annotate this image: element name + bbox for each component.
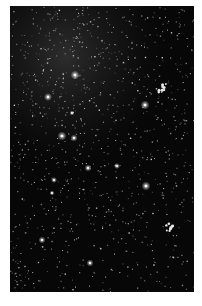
faint-star xyxy=(182,264,183,265)
faint-star xyxy=(22,149,23,150)
faint-star xyxy=(78,178,79,179)
faint-star xyxy=(110,129,111,130)
faint-star xyxy=(132,109,133,110)
faint-star xyxy=(65,273,66,274)
faint-star xyxy=(24,180,25,181)
faint-star xyxy=(95,135,96,136)
faint-star xyxy=(147,222,148,223)
faint-star xyxy=(148,173,149,174)
faint-star xyxy=(17,191,18,192)
faint-star xyxy=(128,181,129,182)
faint-star xyxy=(77,27,78,28)
faint-star xyxy=(119,272,120,273)
faint-star xyxy=(53,30,54,31)
faint-star xyxy=(59,261,60,262)
faint-star xyxy=(171,92,172,93)
faint-star xyxy=(174,174,175,175)
faint-star xyxy=(32,206,33,207)
faint-star xyxy=(184,11,185,12)
faint-star xyxy=(76,165,77,166)
faint-star xyxy=(91,56,92,57)
faint-star xyxy=(68,40,69,41)
faint-star xyxy=(79,34,80,35)
faint-star xyxy=(87,204,88,205)
faint-star xyxy=(62,108,63,109)
faint-star xyxy=(93,164,94,165)
faint-star xyxy=(64,101,65,102)
faint-star xyxy=(27,223,28,224)
faint-star xyxy=(177,89,178,90)
bright-star-core xyxy=(116,165,118,167)
faint-star xyxy=(122,191,123,192)
faint-star xyxy=(78,38,79,39)
faint-star xyxy=(88,210,89,211)
cluster-star xyxy=(161,91,163,93)
faint-star xyxy=(142,157,143,158)
faint-star xyxy=(65,40,66,41)
faint-star xyxy=(128,59,129,60)
faint-star xyxy=(121,154,122,155)
faint-star xyxy=(110,94,111,95)
faint-star xyxy=(162,195,163,196)
faint-star xyxy=(17,162,18,163)
faint-star xyxy=(108,52,109,53)
faint-star xyxy=(106,177,107,178)
faint-star xyxy=(58,287,59,288)
faint-star xyxy=(166,152,167,153)
faint-star xyxy=(92,129,93,130)
faint-star xyxy=(155,262,156,263)
faint-star xyxy=(131,24,132,25)
faint-star xyxy=(76,224,77,225)
faint-star xyxy=(41,179,42,180)
faint-star xyxy=(154,12,155,13)
faint-star xyxy=(177,35,178,36)
faint-star xyxy=(111,211,112,212)
faint-star xyxy=(84,124,85,125)
faint-star xyxy=(48,81,49,82)
faint-star xyxy=(171,32,172,33)
faint-star xyxy=(135,167,136,168)
faint-star xyxy=(83,7,84,8)
faint-star xyxy=(131,22,132,23)
faint-star xyxy=(11,74,12,75)
faint-star xyxy=(181,182,182,183)
faint-star xyxy=(23,174,24,175)
faint-star xyxy=(100,92,101,93)
faint-star xyxy=(44,20,45,21)
faint-star xyxy=(144,47,145,48)
faint-star xyxy=(103,83,104,84)
faint-star xyxy=(135,134,136,135)
faint-star xyxy=(72,95,73,96)
faint-star xyxy=(93,245,94,246)
faint-star xyxy=(168,81,169,82)
faint-star xyxy=(102,290,103,291)
faint-star xyxy=(29,46,30,47)
faint-star xyxy=(193,120,194,121)
faint-star xyxy=(184,132,185,133)
faint-star xyxy=(22,198,23,199)
faint-star xyxy=(175,174,176,175)
faint-star xyxy=(90,21,91,22)
faint-star xyxy=(25,216,26,217)
faint-star xyxy=(28,88,29,89)
faint-star xyxy=(92,24,93,25)
faint-star xyxy=(20,253,21,254)
faint-star xyxy=(70,222,71,223)
faint-star xyxy=(159,65,160,66)
faint-star xyxy=(143,113,144,114)
faint-star xyxy=(94,102,95,103)
faint-star xyxy=(142,213,143,214)
faint-star xyxy=(19,168,20,169)
faint-star xyxy=(79,188,80,189)
faint-star xyxy=(61,202,62,203)
starfield-canvas xyxy=(10,6,194,292)
faint-star xyxy=(62,34,63,35)
faint-star xyxy=(18,142,19,143)
faint-star xyxy=(136,26,137,27)
faint-star xyxy=(13,24,14,25)
faint-star xyxy=(25,45,26,46)
faint-star xyxy=(82,10,83,11)
faint-star xyxy=(53,146,54,147)
faint-star xyxy=(179,17,180,18)
faint-star xyxy=(50,77,51,78)
